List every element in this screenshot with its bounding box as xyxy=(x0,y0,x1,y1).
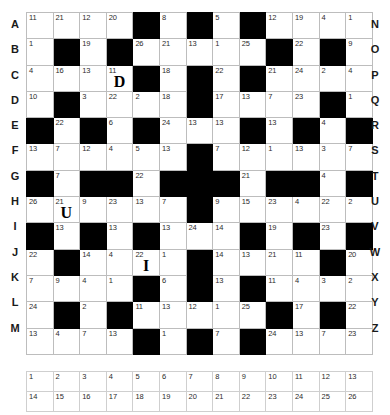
grid-cell-H8[interactable]: 9 xyxy=(213,197,240,223)
legend-cell-16[interactable]: 16 xyxy=(80,392,107,412)
grid-cell-G5[interactable]: 22 xyxy=(133,170,160,196)
grid-cell-C1[interactable]: 4 xyxy=(27,65,54,91)
grid-cell-A8[interactable]: 5 xyxy=(213,13,240,39)
grid-cell-L6[interactable]: 13 xyxy=(159,302,186,328)
grid-cell-F9[interactable]: 12 xyxy=(239,144,266,170)
grid-cell-E6[interactable]: 24 xyxy=(159,118,186,144)
grid-cell-H6[interactable]: 7 xyxy=(159,197,186,223)
grid-cell-M10[interactable]: 24 xyxy=(266,328,293,354)
grid-cell-B7[interactable]: 13 xyxy=(186,39,213,65)
legend-cell-24[interactable]: 24 xyxy=(292,392,319,412)
grid-cell-B9[interactable]: 25 xyxy=(239,39,266,65)
legend-cell-26[interactable]: 26 xyxy=(346,392,373,412)
legend-cell-3[interactable]: 3 xyxy=(80,372,107,392)
grid-cell-L8[interactable]: 1 xyxy=(213,302,240,328)
grid-cell-G2[interactable]: 7 xyxy=(53,170,80,196)
grid-cell-B5[interactable]: 26 xyxy=(133,39,160,65)
grid-cell-B3[interactable]: 19 xyxy=(80,39,107,65)
grid-cell-E2[interactable]: 22 xyxy=(53,118,80,144)
grid-cell-J1[interactable]: 22 xyxy=(27,249,54,275)
grid-cell-M3[interactable]: 7 xyxy=(80,328,107,354)
grid-cell-C8[interactable]: 22 xyxy=(213,65,240,91)
legend-cell-11[interactable]: 11 xyxy=(292,372,319,392)
grid-cell-I4[interactable]: 13 xyxy=(106,223,133,249)
grid-cell-C3[interactable]: 13 xyxy=(80,65,107,91)
legend-cell-21[interactable]: 21 xyxy=(213,392,240,412)
grid-cell-A4[interactable]: 20 xyxy=(106,13,133,39)
grid-cell-A11[interactable]: 19 xyxy=(292,13,319,39)
grid-cell-K12[interactable]: 3 xyxy=(319,275,346,301)
legend-cell-6[interactable]: 6 xyxy=(159,372,186,392)
grid-cell-G12[interactable]: 4 xyxy=(319,170,346,196)
grid-cell-D5[interactable]: 2 xyxy=(133,91,160,117)
grid-cell-D10[interactable]: 7 xyxy=(266,91,293,117)
grid-cell-F12[interactable]: 3 xyxy=(319,144,346,170)
legend-cell-12[interactable]: 12 xyxy=(319,372,346,392)
grid-cell-F8[interactable]: 7 xyxy=(213,144,240,170)
grid-cell-A2[interactable]: 21 xyxy=(53,13,80,39)
grid-cell-F11[interactable]: 13 xyxy=(292,144,319,170)
grid-cell-F2[interactable]: 7 xyxy=(53,144,80,170)
grid-cell-M2[interactable]: 4 xyxy=(53,328,80,354)
grid-cell-H5[interactable]: 13 xyxy=(133,197,160,223)
grid-cell-C12[interactable]: 2 xyxy=(319,65,346,91)
grid-cell-F5[interactable]: 5 xyxy=(133,144,160,170)
grid-cell-K10[interactable]: 11 xyxy=(266,275,293,301)
grid-cell-J10[interactable]: 21 xyxy=(266,249,293,275)
legend-cell-15[interactable]: 15 xyxy=(53,392,80,412)
grid-cell-H9[interactable]: 15 xyxy=(239,197,266,223)
grid-cell-E10[interactable]: 13 xyxy=(266,118,293,144)
grid-cell-E7[interactable]: 13 xyxy=(186,118,213,144)
legend-cell-17[interactable]: 17 xyxy=(106,392,133,412)
grid-cell-M6[interactable]: 1 xyxy=(159,328,186,354)
grid-cell-F3[interactable]: 12 xyxy=(80,144,107,170)
grid-cell-A6[interactable]: 8 xyxy=(159,13,186,39)
grid-cell-I7[interactable]: 24 xyxy=(186,223,213,249)
grid-cell-F10[interactable]: 1 xyxy=(266,144,293,170)
legend-cell-18[interactable]: 18 xyxy=(133,392,160,412)
legend-cell-8[interactable]: 8 xyxy=(213,372,240,392)
grid-cell-C6[interactable]: 18 xyxy=(159,65,186,91)
grid-cell-D11[interactable]: 23 xyxy=(292,91,319,117)
grid-cell-C2[interactable]: 16 xyxy=(53,65,80,91)
grid-cell-F6[interactable]: 13 xyxy=(159,144,186,170)
grid-cell-I12[interactable]: 23 xyxy=(319,223,346,249)
grid-cell-H2[interactable]: 21U xyxy=(53,197,80,223)
grid-cell-I8[interactable]: 14 xyxy=(213,223,240,249)
grid-cell-H12[interactable]: 22 xyxy=(319,197,346,223)
grid-cell-D6[interactable]: 18 xyxy=(159,91,186,117)
grid-cell-I10[interactable]: 19 xyxy=(266,223,293,249)
grid-cell-K6[interactable]: 6 xyxy=(159,275,186,301)
grid-cell-H1[interactable]: 26 xyxy=(27,197,54,223)
grid-cell-B1[interactable]: 1 xyxy=(27,39,54,65)
grid-cell-L9[interactable]: 25 xyxy=(239,302,266,328)
legend-cell-22[interactable]: 22 xyxy=(239,392,266,412)
grid-cell-A1[interactable]: 11 xyxy=(27,13,54,39)
legend-cell-2[interactable]: 2 xyxy=(53,372,80,392)
legend-cell-5[interactable]: 5 xyxy=(133,372,160,392)
grid-cell-D3[interactable]: 3 xyxy=(80,91,107,117)
grid-cell-H4[interactable]: 23 xyxy=(106,197,133,223)
grid-cell-K1[interactable]: 7 xyxy=(27,275,54,301)
grid-cell-K8[interactable]: 13 xyxy=(213,275,240,301)
grid-cell-G9[interactable]: 21 xyxy=(239,170,266,196)
grid-cell-J8[interactable]: 14 xyxy=(213,249,240,275)
grid-cell-J3[interactable]: 14 xyxy=(80,249,107,275)
legend-cell-25[interactable]: 25 xyxy=(319,392,346,412)
grid-cell-C11[interactable]: 24 xyxy=(292,65,319,91)
legend-cell-1[interactable]: 1 xyxy=(27,372,54,392)
grid-cell-H3[interactable]: 9 xyxy=(80,197,107,223)
legend-cell-23[interactable]: 23 xyxy=(266,392,293,412)
grid-cell-K4[interactable]: 1 xyxy=(106,275,133,301)
grid-cell-B8[interactable]: 1 xyxy=(213,39,240,65)
grid-cell-E4[interactable]: 6 xyxy=(106,118,133,144)
grid-cell-D1[interactable]: 10 xyxy=(27,91,54,117)
grid-cell-J6[interactable]: 1 xyxy=(159,249,186,275)
legend-cell-9[interactable]: 9 xyxy=(239,372,266,392)
grid-cell-I2[interactable]: 13 xyxy=(53,223,80,249)
grid-cell-D4[interactable]: 22 xyxy=(106,91,133,117)
grid-cell-M1[interactable]: 13 xyxy=(27,328,54,354)
legend-cell-7[interactable]: 7 xyxy=(186,372,213,392)
grid-cell-M11[interactable]: 13 xyxy=(292,328,319,354)
grid-cell-M12[interactable]: 7 xyxy=(319,328,346,354)
